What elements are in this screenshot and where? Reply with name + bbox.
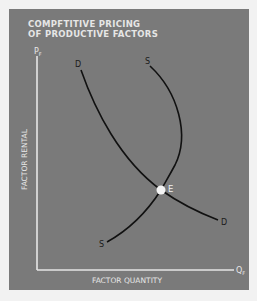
chart-plot: PF QF FACTOR RENTAL FACTOR QUANTITY D D … — [0, 0, 257, 301]
supply-curve — [107, 66, 182, 242]
x-axis-title: FACTOR QUANTITY — [92, 276, 162, 285]
demand-label-top: D — [75, 60, 81, 69]
x-axis-end-label: QF — [236, 266, 245, 276]
demand-label-bottom: D — [221, 218, 227, 227]
demand-curve — [81, 70, 218, 220]
equilibrium-point — [157, 186, 166, 195]
supply-label-bottom: S — [99, 240, 104, 249]
equilibrium-label: E — [168, 184, 173, 194]
y-axis-title: FACTOR RENTAL — [20, 128, 29, 190]
y-axis-end-label: PF — [34, 47, 42, 57]
supply-label-top: S — [145, 57, 150, 66]
